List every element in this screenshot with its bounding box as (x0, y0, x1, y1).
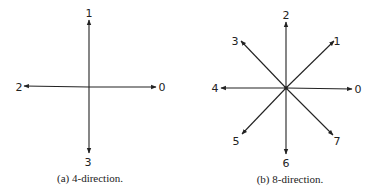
eight-direction-diagram: 01234567 (212, 9, 362, 170)
direction-label-0: 0 (159, 81, 166, 94)
direction-label-3: 3 (85, 156, 92, 169)
direction-label-0: 0 (355, 83, 362, 96)
arrow-direction-2 (24, 86, 89, 87)
direction-label-4: 4 (212, 82, 219, 95)
arrow-direction-0 (286, 88, 352, 89)
direction-label-3: 3 (232, 35, 239, 48)
direction-label-2: 2 (16, 81, 23, 94)
direction-label-5: 5 (233, 135, 240, 148)
arrow-direction-1 (286, 41, 334, 88)
center-dot (284, 86, 288, 90)
direction-diagrams: 0123 01234567 (a) 4-direction. (b) 8-dir… (0, 0, 376, 193)
direction-label-6: 6 (283, 157, 290, 170)
caption-b: (b) 8-direction. (257, 173, 324, 186)
arrow-direction-5 (242, 88, 286, 134)
arrow-direction-7 (286, 88, 333, 135)
four-direction-diagram: 0123 (16, 7, 166, 169)
caption-a: (a) 4-direction. (57, 172, 123, 185)
direction-label-2: 2 (283, 9, 290, 22)
arrow-direction-3 (241, 41, 286, 88)
direction-label-7: 7 (334, 135, 341, 148)
direction-label-1: 1 (86, 7, 93, 20)
direction-label-1: 1 (334, 35, 341, 48)
